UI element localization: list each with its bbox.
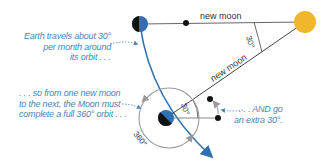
- caption-earth-travels: Earth travels about 30° per month around…: [24, 31, 111, 63]
- caption-so-from: . . . so from one new moon to the next, …: [19, 88, 127, 120]
- caption-and-go: . . . AND go an extra 30°.: [234, 104, 283, 125]
- earth-orbit-path: [140, 24, 211, 156]
- extra-angle-arrow: [214, 102, 218, 114]
- new-moon-label-top: new moon: [200, 11, 242, 21]
- full-orbit-label: 360°: [131, 130, 148, 149]
- earth-icon: [132, 16, 148, 32]
- new-moon-label-diag: new moon: [209, 52, 249, 84]
- moon-orbit-diagram: new moon new moon 30° 30° 360°: [0, 0, 333, 161]
- earth-sun-line-1: [140, 22, 305, 24]
- sun-angle-arc: [254, 22, 262, 52]
- sun-angle-label: 30°: [244, 35, 256, 49]
- moon-icon: [183, 20, 189, 26]
- sun-icon: [294, 11, 316, 33]
- moon-icon: [207, 96, 213, 102]
- moon-icon: [215, 115, 221, 121]
- earth-angle-label: 30°: [179, 102, 191, 116]
- earth-icon: [158, 110, 174, 126]
